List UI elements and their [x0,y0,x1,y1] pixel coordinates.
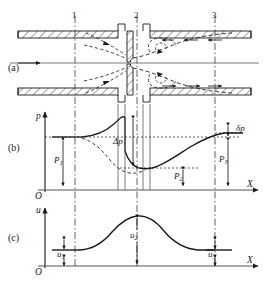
label-u1: u1 [57,250,65,259]
panel-c-origin: O [35,268,42,278]
label-u2: u2 [130,231,138,240]
section-label-1: 1 [72,11,77,20]
figure-canvas [0,0,269,289]
label-P1: P1 [54,156,63,165]
label-P3: P3 [219,155,228,164]
section-lines [75,16,215,268]
panel-label-c: (c) [8,233,19,243]
panel-label-a: (a) [8,63,19,73]
panel-label-b: (b) [8,143,20,153]
figure-root: 1 2 3 (a) (b) (c) p O X P1 P2 P3 Δp δp u… [0,0,269,289]
panel-b-pressure [38,112,258,192]
vortex-lower [148,72,222,88]
panel-c-velocity [38,208,258,268]
pressure-rise [82,117,125,137]
pressure-axis-label: p [36,112,41,122]
panel-b-origin: O [35,192,42,202]
label-permanent-loss: δp [236,124,245,133]
panel-c-x-axis-label: X [247,256,253,266]
panel-b-x-axis-label: X [247,180,253,190]
section-label-3: 3 [212,11,217,20]
label-delta-p: Δp [113,137,123,146]
label-u3: u3 [208,250,216,259]
vortex-upper [148,38,222,54]
label-P2: P2 [174,172,183,181]
velocity-axis-label: u [36,206,41,216]
panel-a-pipe [10,24,259,102]
velocity-curve [78,216,214,250]
section-label-2: 2 [134,11,139,20]
